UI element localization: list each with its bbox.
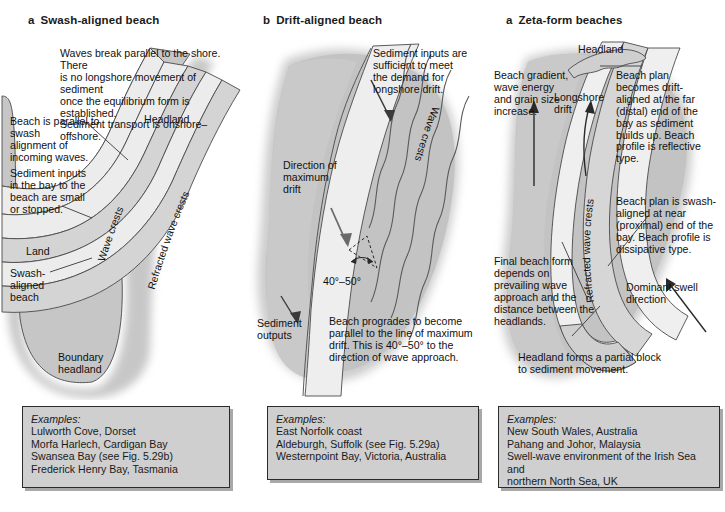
- dominant-swell-direction-label: Dominant swell direction: [626, 282, 718, 306]
- examples-box-c: Examples: New South Wales, Australia Pah…: [498, 406, 720, 488]
- examples-list-b: East Norfolk coast Aldeburgh, Suffolk (s…: [276, 425, 470, 462]
- land-label: Land: [26, 246, 50, 258]
- beach-parallel-note: Beach is parallel to swash alignment of …: [10, 116, 120, 164]
- examples-title-a: Examples:: [31, 413, 221, 425]
- examples-title-c: Examples:: [507, 413, 711, 425]
- beach-progrades-note: Beach progrades to become parallel to th…: [329, 316, 481, 364]
- panel-zeta-form-beaches: aZeta-form beaches: [490, 0, 725, 512]
- beach-plan-drift-note: Beach plan becomes drift- aligned at the…: [616, 70, 720, 165]
- sediment-inputs-note: Sediment inputs are sufficient to meet t…: [373, 48, 485, 96]
- final-beach-form-note: Final beach form depends on prevailing w…: [494, 256, 604, 327]
- headland-label: Headland: [144, 114, 189, 126]
- examples-box-a: Examples: Lulworth Cove, Dorset Morfa Ha…: [22, 406, 230, 488]
- swash-aligned-beach-label: Swash- aligned beach: [10, 268, 74, 304]
- examples-list-c: New South Wales, Australia Pahang and Jo…: [507, 425, 711, 487]
- examples-box-b: Examples: East Norfolk coast Aldeburgh, …: [267, 406, 479, 480]
- panel-drift-aligned-beach: bDrift-aligned beach: [245, 0, 490, 512]
- beach-plan-swash-note: Beach plan is swash- aligned at near (pr…: [616, 196, 724, 256]
- headland-label: Headland: [578, 44, 623, 56]
- direction-of-maximum-drift-label: Direction of maximum drift: [283, 160, 365, 196]
- examples-list-a: Lulworth Cove, Dorset Morfa Harlech, Car…: [31, 425, 221, 475]
- examples-title-b: Examples:: [276, 413, 470, 425]
- sediment-inputs-note: Sediment inputs in the bay to the beach …: [10, 168, 106, 216]
- angle-label: 40°–50°: [323, 276, 361, 288]
- sediment-outputs-label: Sediment outputs: [257, 318, 325, 342]
- panel-swash-aligned-beach: aSwash-aligned beach: [0, 0, 245, 512]
- boundary-headland-label: Boundary headland: [58, 352, 138, 376]
- headland-partial-block-note: Headland forms a partial block to sedime…: [518, 352, 682, 376]
- longshore-drift-label: Longshore drift: [554, 92, 612, 116]
